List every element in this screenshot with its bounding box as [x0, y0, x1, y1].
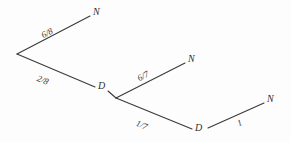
node-label-n2: N [188, 54, 195, 64]
probability-tree-diagram: N D N D N 6/8 2/8 6/7 1/7 1 [0, 0, 291, 143]
branch-root-to-d1 [17, 54, 95, 87]
node-label-d1: D [98, 81, 105, 91]
branch-split2-to-n2 [116, 63, 185, 98]
node-label-d2: D [195, 123, 202, 133]
node-label-n1: N [93, 7, 100, 17]
node-label-n3: N [267, 94, 274, 104]
branch-d1-to-split2 [108, 91, 116, 98]
branch-split2-to-d2 [116, 98, 192, 129]
branch-d2-to-n3 [208, 103, 264, 128]
